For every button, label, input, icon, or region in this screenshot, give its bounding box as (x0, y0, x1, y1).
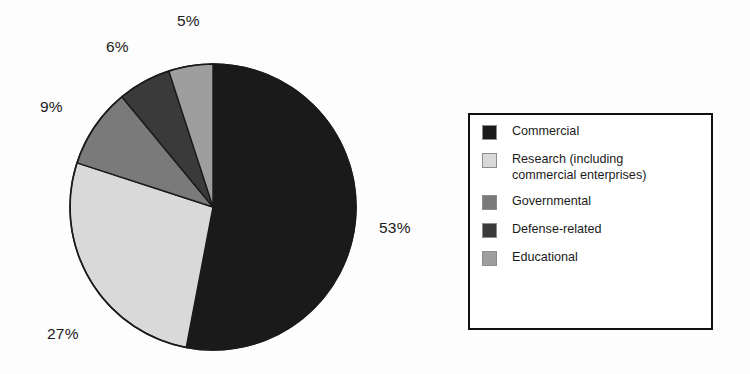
pie-label-governmental: 9% (40, 98, 63, 116)
pie-chart-graphic (68, 62, 358, 352)
legend-item-research[interactable]: Research (including commercial enterpris… (482, 152, 703, 183)
legend-item-commercial[interactable]: Commercial (482, 124, 703, 142)
legend-label-commercial: Commercial (512, 124, 579, 140)
pie-slices (70, 64, 356, 350)
pie-label-commercial: 53% (379, 219, 411, 237)
legend-item-defense-related[interactable]: Defense-related (482, 222, 703, 240)
legend-list: Commercial Research (including commercia… (482, 124, 703, 268)
pie-label-defense-related: 6% (106, 38, 129, 56)
legend-label-research: Research (including commercial enterpris… (512, 152, 646, 183)
legend-swatch-commercial (482, 125, 497, 140)
legend-label-governmental: Governmental (512, 194, 591, 210)
legend-label-defense-related: Defense-related (512, 222, 602, 238)
legend-swatch-research (482, 153, 497, 168)
legend-item-educational[interactable]: Educational (482, 250, 703, 268)
legend-swatch-educational (482, 251, 497, 266)
legend-swatch-governmental (482, 195, 497, 210)
pie-label-research: 27% (47, 325, 79, 343)
pie-label-educational: 5% (177, 12, 200, 30)
legend-swatch-defense-related (482, 223, 497, 238)
pie-chart-figure: 5% 6% 9% 27% 53% Commercial Research (in… (0, 0, 750, 374)
legend-item-governmental[interactable]: Governmental (482, 194, 703, 212)
legend-label-educational: Educational (512, 250, 578, 266)
pie-svg (68, 62, 358, 352)
legend-box: Commercial Research (including commercia… (468, 113, 713, 330)
